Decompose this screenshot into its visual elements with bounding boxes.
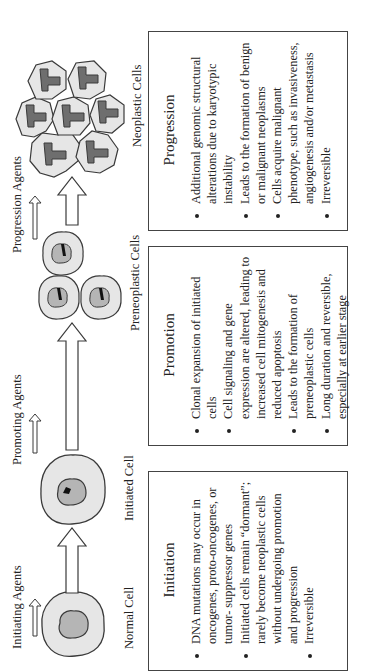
initiated-cell-icon xyxy=(41,455,105,524)
initiation-bullet: DNA mutations may occur in oncogenes, pr… xyxy=(188,480,237,644)
progression-bullet: Additional genomic structural alteration… xyxy=(188,40,237,204)
normal-cell-icon xyxy=(42,592,104,656)
promotion-title: Promotion xyxy=(161,255,178,435)
promotion-bullet: Long duration and reversible, especially… xyxy=(318,255,350,419)
initiated-cell-label: Initiated Cell xyxy=(122,455,137,521)
progression-bullets: Additional genomic structural alteration… xyxy=(188,40,334,220)
initiation-bullets: DNA mutations may occur in oncogenes, pr… xyxy=(188,480,318,660)
promoting-arrow-icon xyxy=(29,323,86,453)
carcinogenesis-diagram: Initiating Agents Promoting Agents Progr… xyxy=(0,0,386,671)
progression-title: Progression xyxy=(161,40,178,220)
progression-bullet: Irreversible xyxy=(318,40,334,204)
promotion-bullets: Clonal expansion of initiated cells Cell… xyxy=(188,255,350,435)
progression-arrow-icon xyxy=(29,177,86,239)
preneoplastic-cells-label: Preneoplastic Cells xyxy=(128,235,143,331)
preneoplastic-cells-icon xyxy=(39,232,121,319)
promotion-bullet: Leads to the formation of preneoplastic … xyxy=(285,255,317,419)
neoplastic-cells-icon xyxy=(16,61,124,177)
promotion-bullet: Cell signaling and gene expression are a… xyxy=(220,255,285,419)
cell-progression-graphic xyxy=(0,0,150,671)
initiation-title: Initiation xyxy=(161,480,178,660)
progression-bullet: Cells acquire malignant phenotype, such … xyxy=(269,40,318,204)
normal-cell-label: Normal Cell xyxy=(122,587,137,649)
neoplastic-cells-label: Neoplastic Cells xyxy=(130,65,145,147)
initiation-bullet: Irreversible xyxy=(301,480,317,644)
progression-bullet: Leads to the formation of benign or mali… xyxy=(237,40,269,204)
promotion-box: Promotion Clonal expansion of initiated … xyxy=(148,246,348,446)
initiation-bullet: Initiated cells remain “dormant”; rarely… xyxy=(237,480,302,644)
promotion-bullet: Clonal expansion of initiated cells xyxy=(188,255,220,419)
initiation-box: Initiation DNA mutations may occur in on… xyxy=(148,471,348,671)
progression-box: Progression Additional genomic structura… xyxy=(148,31,348,231)
